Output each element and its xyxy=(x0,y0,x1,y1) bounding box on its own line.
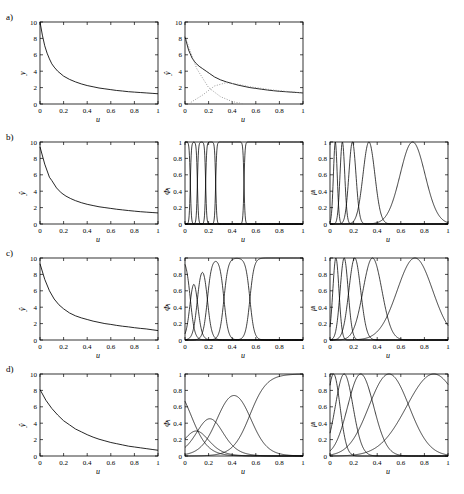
svg-text:1: 1 xyxy=(324,139,328,147)
svg-text:2: 2 xyxy=(34,84,38,92)
y-axis-label-9: Φi xyxy=(163,419,172,427)
svg-text:0.6: 0.6 xyxy=(396,227,405,235)
svg-text:0.4: 0.4 xyxy=(228,343,237,351)
svg-text:0.4: 0.4 xyxy=(228,107,237,115)
plot-a-1: 00.20.40.60.810246810 xyxy=(40,22,160,118)
svg-text:0.8: 0.8 xyxy=(130,459,139,467)
svg-text:0.4: 0.4 xyxy=(83,343,92,351)
svg-text:0.4: 0.4 xyxy=(173,188,182,196)
svg-text:0.6: 0.6 xyxy=(106,227,115,235)
svg-text:0.8: 0.8 xyxy=(173,271,182,279)
svg-text:0.8: 0.8 xyxy=(318,155,327,163)
svg-text:1: 1 xyxy=(301,343,305,351)
svg-text:10: 10 xyxy=(175,19,183,27)
svg-text:0.8: 0.8 xyxy=(420,343,429,351)
x-axis-label-1: u xyxy=(241,115,245,124)
svg-text:0.8: 0.8 xyxy=(130,227,139,235)
svg-text:1: 1 xyxy=(446,343,450,351)
svg-text:1: 1 xyxy=(324,255,328,263)
svg-text:0: 0 xyxy=(34,221,38,229)
svg-text:0: 0 xyxy=(179,453,183,461)
svg-text:0: 0 xyxy=(328,227,332,235)
svg-text:0.4: 0.4 xyxy=(83,227,92,235)
plot-b-3: 00.20.40.60.8100.20.40.60.81 xyxy=(330,142,450,238)
y-axis-label-4: μi xyxy=(308,189,317,195)
svg-text:0: 0 xyxy=(179,101,183,109)
svg-text:1: 1 xyxy=(156,107,160,115)
svg-text:6: 6 xyxy=(34,287,38,295)
svg-text:8: 8 xyxy=(34,271,38,279)
x-axis-label-4: u xyxy=(386,235,390,244)
svg-text:0.2: 0.2 xyxy=(204,227,213,235)
svg-text:0.8: 0.8 xyxy=(420,459,429,467)
plot-c-1: 00.20.40.60.810246810 xyxy=(40,258,160,354)
svg-text:0.2: 0.2 xyxy=(59,343,68,351)
svg-text:0.2: 0.2 xyxy=(349,343,358,351)
svg-text:1: 1 xyxy=(446,227,450,235)
row-label-2: c) xyxy=(6,248,13,258)
y-axis-label-1: ŷ xyxy=(163,71,172,75)
y-axis-label-6: Φi xyxy=(163,303,172,311)
svg-text:1: 1 xyxy=(179,139,183,147)
svg-text:0.6: 0.6 xyxy=(318,171,327,179)
svg-text:0.2: 0.2 xyxy=(173,436,182,444)
svg-text:0.8: 0.8 xyxy=(275,107,284,115)
y-axis-label-7: μi xyxy=(308,305,317,311)
svg-text:0.2: 0.2 xyxy=(59,227,68,235)
svg-text:0.6: 0.6 xyxy=(318,403,327,411)
x-axis-label-8: u xyxy=(96,467,100,476)
svg-text:0: 0 xyxy=(324,453,328,461)
svg-text:0.6: 0.6 xyxy=(251,227,260,235)
svg-text:1: 1 xyxy=(446,459,450,467)
svg-text:0.6: 0.6 xyxy=(173,287,182,295)
svg-text:0: 0 xyxy=(324,337,328,345)
svg-text:0.2: 0.2 xyxy=(173,320,182,328)
svg-text:1: 1 xyxy=(301,459,305,467)
plot-b-1: 00.20.40.60.810246810 xyxy=(40,142,160,238)
svg-text:0.4: 0.4 xyxy=(173,420,182,428)
svg-text:0: 0 xyxy=(179,221,183,229)
svg-text:4: 4 xyxy=(34,420,38,428)
svg-text:1: 1 xyxy=(301,227,305,235)
svg-text:2: 2 xyxy=(34,436,38,444)
svg-text:0.2: 0.2 xyxy=(204,107,213,115)
plot-c-3: 00.20.40.60.8100.20.40.60.81 xyxy=(330,258,450,354)
svg-text:4: 4 xyxy=(34,188,38,196)
svg-text:0.4: 0.4 xyxy=(318,188,327,196)
svg-text:0: 0 xyxy=(38,459,42,467)
svg-text:0.8: 0.8 xyxy=(173,155,182,163)
svg-text:0: 0 xyxy=(34,453,38,461)
svg-text:0.4: 0.4 xyxy=(228,227,237,235)
svg-text:0.4: 0.4 xyxy=(318,420,327,428)
svg-text:0.6: 0.6 xyxy=(106,343,115,351)
svg-text:10: 10 xyxy=(30,139,38,147)
svg-text:0.4: 0.4 xyxy=(83,459,92,467)
svg-text:0.2: 0.2 xyxy=(349,227,358,235)
svg-text:0.2: 0.2 xyxy=(318,320,327,328)
svg-text:8: 8 xyxy=(179,35,183,43)
svg-text:0.4: 0.4 xyxy=(173,304,182,312)
y-axis-label-2: ŷ xyxy=(18,191,27,195)
plot-d-3: 00.20.40.60.8100.20.40.60.81 xyxy=(330,374,450,470)
svg-text:0: 0 xyxy=(38,227,42,235)
svg-text:0: 0 xyxy=(328,343,332,351)
svg-text:0.2: 0.2 xyxy=(318,204,327,212)
svg-text:0: 0 xyxy=(179,337,183,345)
svg-text:0.6: 0.6 xyxy=(106,107,115,115)
svg-text:0: 0 xyxy=(34,337,38,345)
svg-text:1: 1 xyxy=(156,459,160,467)
svg-text:0: 0 xyxy=(324,221,328,229)
svg-text:0.6: 0.6 xyxy=(173,171,182,179)
svg-text:0.2: 0.2 xyxy=(204,343,213,351)
svg-text:0: 0 xyxy=(328,459,332,467)
svg-text:4: 4 xyxy=(34,304,38,312)
y-axis-label-3: Φi xyxy=(163,187,172,195)
y-axis-label-8: ŷ xyxy=(18,423,27,427)
svg-text:0.2: 0.2 xyxy=(173,204,182,212)
svg-text:8: 8 xyxy=(34,387,38,395)
svg-text:0: 0 xyxy=(183,343,187,351)
svg-text:2: 2 xyxy=(34,204,38,212)
x-axis-label-5: u xyxy=(96,351,100,360)
svg-text:0.6: 0.6 xyxy=(396,343,405,351)
y-axis-label-0: y xyxy=(18,71,27,75)
